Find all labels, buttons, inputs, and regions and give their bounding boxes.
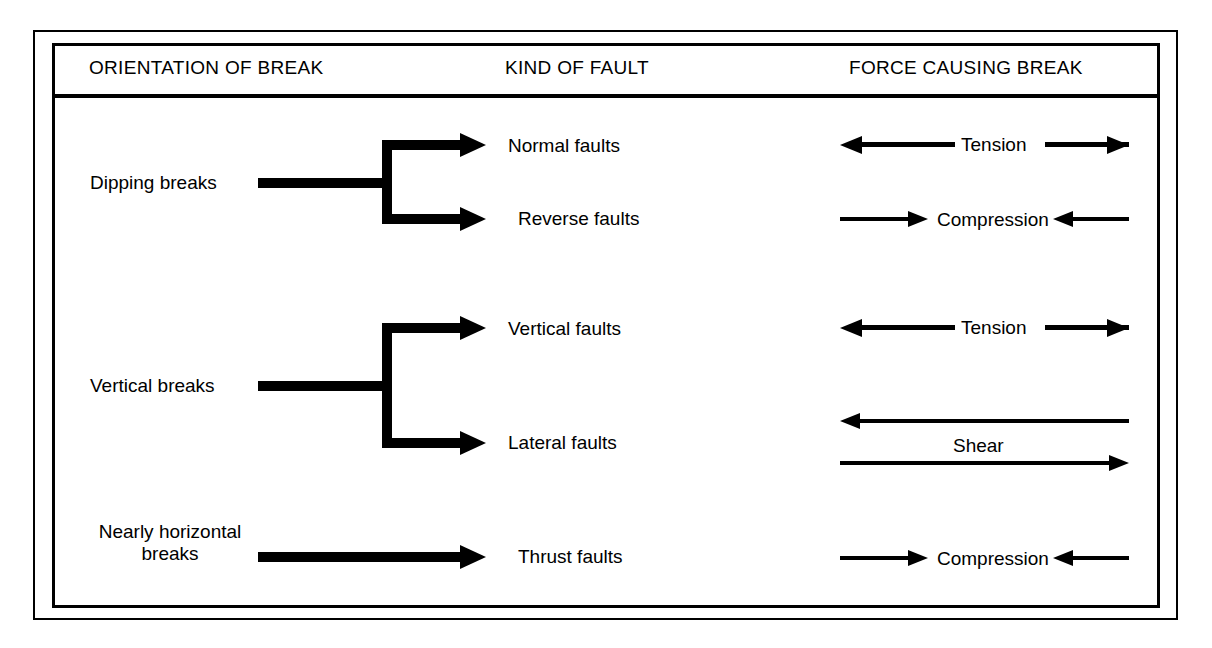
force-label-tension-row1: Tension	[961, 134, 1027, 156]
row-label-line2: breaks	[141, 543, 198, 564]
fault-label-reverse-faults: Reverse faults	[518, 208, 639, 230]
arrow-right-icon-row2-bottom	[460, 431, 486, 455]
arrow-right-icon-compression-row3	[908, 550, 928, 566]
tension-line-left-row1	[861, 142, 955, 147]
arrow-right-icon-row1-top	[460, 133, 486, 157]
arrow-left-icon-compression-row3	[1053, 550, 1073, 566]
arrow-right-icon-tension-row2	[1107, 319, 1129, 337]
fault-label-lateral-faults: Lateral faults	[508, 432, 617, 454]
arrow-right-icon-shear-bottom	[1109, 455, 1129, 471]
arrow-left-icon-compression-row1	[1053, 211, 1073, 227]
branch-stem-row3	[258, 552, 464, 562]
fault-classification-diagram: ORIENTATION OF BREAK KIND OF FAULT FORCE…	[0, 0, 1212, 648]
compression-line-left-row3	[840, 556, 918, 560]
arrow-right-icon-compression-row1	[908, 211, 928, 227]
compression-line-right-row3	[1072, 556, 1129, 560]
arrow-right-icon-row1-bottom	[460, 207, 486, 231]
force-label-compression-row1: Compression	[937, 209, 1049, 231]
column-header-kind-of-fault: KIND OF FAULT	[505, 58, 649, 77]
row-label-line1: Nearly horizontal	[99, 521, 242, 542]
branch-arm-top-row2	[382, 323, 464, 333]
column-header-orientation: ORIENTATION OF BREAK	[89, 58, 323, 77]
compression-line-right-row1	[1072, 217, 1129, 221]
arrow-left-icon-shear-top	[840, 413, 860, 429]
fault-label-vertical-faults: Vertical faults	[508, 318, 621, 340]
compression-line-left-row1	[840, 217, 918, 221]
tension-line-left-row2	[861, 325, 955, 330]
shear-line-top	[858, 419, 1129, 423]
row-label-dipping-breaks: Dipping breaks	[90, 172, 217, 194]
branch-arm-top-row1	[382, 140, 464, 150]
force-label-shear: Shear	[953, 435, 1004, 457]
force-label-tension-row2: Tension	[961, 317, 1027, 339]
force-label-compression-row3: Compression	[937, 548, 1049, 570]
branch-arm-bottom-row1	[382, 214, 464, 224]
row-label-vertical-breaks: Vertical breaks	[90, 375, 215, 397]
arrow-right-icon-tension-row1	[1107, 136, 1129, 154]
row-label-nearly-horizontal-breaks: Nearly horizontal breaks	[80, 521, 260, 565]
branch-arm-bottom-row2	[382, 438, 464, 448]
branch-riser-row2	[382, 323, 392, 448]
header-divider-rule	[52, 94, 1160, 98]
arrow-right-icon-row2-top	[460, 316, 486, 340]
shear-line-bottom	[840, 461, 1111, 465]
branch-stem-row2	[258, 381, 392, 391]
fault-label-thrust-faults: Thrust faults	[518, 546, 623, 568]
column-header-force: FORCE CAUSING BREAK	[849, 58, 1083, 77]
arrow-right-icon-row3	[460, 545, 486, 569]
arrow-left-icon-tension-row1	[840, 136, 862, 154]
branch-riser-row1	[382, 140, 392, 224]
fault-label-normal-faults: Normal faults	[508, 135, 620, 157]
arrow-left-icon-tension-row2	[840, 319, 862, 337]
branch-stem-row1	[258, 178, 392, 188]
